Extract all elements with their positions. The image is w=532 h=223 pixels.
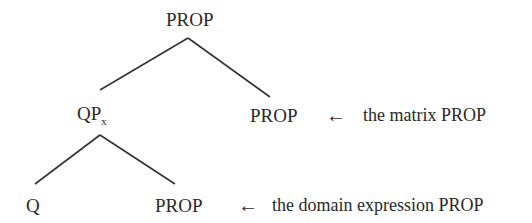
- node-qp-label: QP: [77, 103, 101, 124]
- arrow-left-icon: ←: [238, 195, 258, 215]
- node-qp: QPx: [77, 104, 107, 127]
- arrow-left-icon: ←: [326, 105, 346, 125]
- node-matrix: PROP: [250, 106, 298, 125]
- edge-qp-q: [35, 135, 100, 184]
- node-root: PROP: [166, 10, 214, 29]
- node-domain: PROP: [155, 196, 203, 215]
- node-q: Q: [26, 196, 40, 215]
- edge-root-qp: [100, 38, 188, 90]
- edge-root-matrix: [188, 38, 270, 97]
- node-qp-subscript: x: [101, 115, 107, 127]
- annotation-matrix: the matrix PROP: [363, 106, 486, 124]
- annotation-domain: the domain expression PROP: [272, 196, 484, 214]
- edge-qp-domain: [100, 135, 175, 184]
